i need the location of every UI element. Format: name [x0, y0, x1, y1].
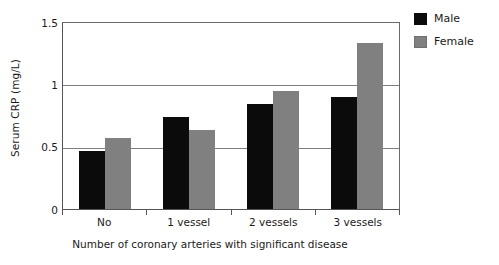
y-axis-tick-labels: 0 0.5 1 1.5	[24, 0, 58, 265]
y-tick-label-0.5: 0.5	[28, 141, 58, 153]
legend-swatch-male	[414, 13, 427, 25]
x-axis-title: Number of coronary arteries with signifi…	[0, 238, 420, 250]
y-axis-title-text: Serum CRP (mg/L)	[9, 58, 21, 156]
x-tick-mark-0	[62, 210, 63, 215]
x-category-label-1-vessel: 1 vessel	[147, 216, 232, 228]
chart-legend: Male Female	[414, 12, 498, 58]
bar-male-2-vessels	[247, 104, 273, 209]
bar-male-3-vessels	[331, 97, 357, 209]
y-axis-title: Serum CRP (mg/L)	[4, 0, 26, 215]
bar-female-2-vessels	[273, 91, 299, 209]
bar-male-no	[79, 151, 105, 209]
legend-label-female: Female	[434, 35, 474, 48]
legend-label-male: Male	[434, 12, 460, 25]
x-category-label-2-vessels: 2 vessels	[231, 216, 316, 228]
x-tick-mark-3	[315, 210, 316, 215]
bar-male-1-vessel	[163, 117, 189, 209]
y-tick-label-1: 1	[28, 79, 58, 91]
bar-group-1-vessel	[147, 23, 231, 209]
x-tick-mark-1	[146, 210, 147, 215]
bar-female-1-vessel	[189, 130, 215, 209]
legend-entry-male: Male	[414, 12, 498, 25]
bar-female-no	[105, 138, 131, 209]
bar-chart-figure: Serum CRP (mg/L) 0 0.5 1 1.5	[0, 0, 499, 265]
x-axis-category-labels: No 1 vessel 2 vessels 3 vessels	[62, 216, 400, 228]
bar-group-3-vessels	[315, 23, 399, 209]
bar-group-no	[63, 23, 147, 209]
x-tick-mark-2	[231, 210, 232, 215]
plot-area	[62, 22, 400, 210]
bar-series-container	[63, 23, 399, 209]
legend-swatch-female	[414, 36, 427, 48]
bar-female-3-vessels	[357, 43, 383, 209]
x-category-label-no: No	[62, 216, 147, 228]
legend-entry-female: Female	[414, 35, 498, 48]
y-tick-label-1.5: 1.5	[28, 17, 58, 29]
y-tick-label-0: 0	[28, 204, 58, 216]
bar-group-2-vessels	[231, 23, 315, 209]
x-category-label-3-vessels: 3 vessels	[316, 216, 401, 228]
x-tick-mark-4	[399, 210, 400, 215]
